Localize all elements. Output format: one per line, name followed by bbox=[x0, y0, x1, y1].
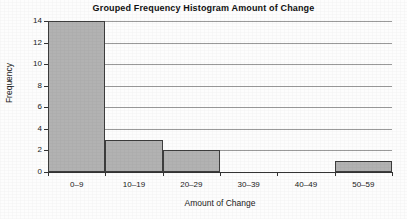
y-tick-mark bbox=[44, 86, 48, 87]
y-tick-label: 2 bbox=[26, 146, 42, 154]
x-tick-mark bbox=[392, 172, 393, 176]
x-tick-label: 0–9 bbox=[48, 180, 105, 189]
x-axis-title: Amount of Change bbox=[48, 198, 392, 208]
x-tick-label: 40–49 bbox=[277, 180, 334, 189]
y-tick-label-container: 12 bbox=[24, 39, 42, 47]
y-tick-mark bbox=[44, 150, 48, 151]
x-tick-mark bbox=[163, 172, 164, 176]
y-tick-label-container: 6 bbox=[24, 103, 42, 111]
x-tick-label: 20–29 bbox=[163, 180, 220, 189]
x-tick-label: 10–19 bbox=[105, 180, 162, 189]
x-tick-mark bbox=[48, 172, 49, 176]
histogram-bar bbox=[48, 21, 105, 172]
y-tick-label: 4 bbox=[26, 125, 42, 133]
y-tick-mark bbox=[44, 129, 48, 130]
y-tick-mark bbox=[44, 64, 48, 65]
x-tick-mark bbox=[335, 172, 336, 176]
y-tick-label: 14 bbox=[26, 17, 42, 25]
bar-series bbox=[48, 21, 392, 172]
y-axis-title: Frequency bbox=[4, 47, 14, 119]
y-tick-label: 10 bbox=[26, 60, 42, 68]
x-tick-mark bbox=[277, 172, 278, 176]
x-tick-label: 50–59 bbox=[335, 180, 392, 189]
plot-area bbox=[48, 21, 392, 172]
y-tick-mark bbox=[44, 107, 48, 108]
y-tick-label: 6 bbox=[26, 103, 42, 111]
y-tick-label: 12 bbox=[26, 39, 42, 47]
y-tick-label: 8 bbox=[26, 82, 42, 90]
y-tick-label-container: 2 bbox=[24, 146, 42, 154]
histogram-bar bbox=[335, 161, 392, 172]
y-tick-label: 0 bbox=[26, 168, 42, 176]
y-tick-mark bbox=[44, 43, 48, 44]
histogram-bar bbox=[163, 150, 220, 172]
y-tick-label-container: 4 bbox=[24, 125, 42, 133]
x-tick-mark bbox=[105, 172, 106, 176]
x-tick-mark bbox=[220, 172, 221, 176]
y-tick-mark bbox=[44, 21, 48, 22]
y-tick-label-container: 8 bbox=[24, 82, 42, 90]
y-tick-label-container: 14 bbox=[24, 17, 42, 25]
histogram-figure: Grouped Frequency Histogram Amount of Ch… bbox=[0, 0, 407, 219]
chart-title: Grouped Frequency Histogram Amount of Ch… bbox=[0, 3, 407, 13]
histogram-bar bbox=[105, 140, 162, 172]
x-tick-label: 30–39 bbox=[220, 180, 277, 189]
y-tick-label-container: 10 bbox=[24, 60, 42, 68]
y-tick-label-container: 0 bbox=[24, 168, 42, 176]
